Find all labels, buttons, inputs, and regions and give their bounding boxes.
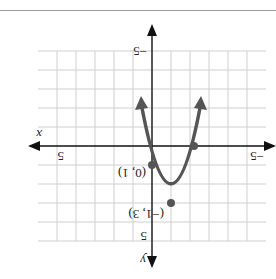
vertex-point [167,199,175,207]
x-intercept-point [190,142,198,150]
y-pos-tick: 5 [141,229,148,244]
y-axis-label: y [140,253,148,268]
intercept-label: (0, 1) [118,166,146,181]
parabola-graph: (−1, 3) (0, 1) −5 5 −5 5 x y [0,0,276,279]
y-neg-tick: −5 [133,44,147,59]
x-neg-tick: −5 [250,149,264,164]
x-axis-arrow-icon [264,141,276,151]
curve-arrow-icon [194,96,207,110]
x-axis-label: x [36,127,43,142]
curve-arrow-icon [135,96,148,110]
x-pos-tick: 5 [58,149,65,164]
y-intercept-point [148,161,156,169]
vertex-label: (−1, 3) [129,207,165,222]
y-axis-arrow-icon [147,256,157,268]
y-axis-arrow-icon [147,24,157,36]
